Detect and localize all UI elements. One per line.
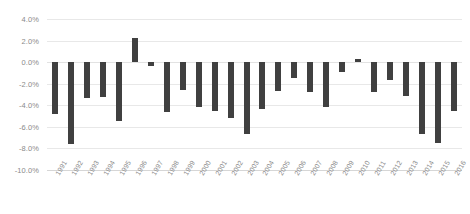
y-tick-label: -4.0% [19,101,39,110]
bar [451,62,457,111]
y-tick-label: 2.0% [22,36,40,45]
bar [68,62,74,144]
bar [180,62,186,90]
bar [403,62,409,95]
bar [212,62,218,111]
bar [244,62,250,134]
y-tick-label: -10.0% [15,166,39,175]
bars-layer [47,19,462,170]
y-tick-label: -6.0% [19,122,39,131]
bar [291,62,297,78]
bar [419,62,425,134]
bar [164,62,170,112]
bar [84,62,90,98]
bar [371,62,377,92]
bar [148,62,154,66]
y-tick-label: 0.0% [22,58,40,67]
y-axis: 4.0%2.0%0.0%-2.0%-4.0%-6.0%-8.0%-10.0% [0,19,43,170]
bar [132,38,138,62]
bar [323,62,329,107]
bar [307,62,313,92]
bar [196,62,202,107]
bar [116,62,122,121]
bar [355,59,361,62]
bar [100,62,106,97]
bar [259,62,265,108]
bar [228,62,234,118]
plot-area [47,19,462,170]
bar [435,62,441,143]
bar [52,62,58,114]
y-tick-label: -8.0% [19,144,39,153]
bar-chart: 4.0%2.0%0.0%-2.0%-4.0%-6.0%-8.0%-10.0% 1… [0,0,470,214]
y-tick-label: -2.0% [19,79,39,88]
x-axis: 1991199219931994199519961997199819992000… [47,171,462,214]
bar [387,62,393,80]
bar [275,62,281,91]
bar [339,62,345,72]
y-tick-label: 4.0% [22,15,40,24]
